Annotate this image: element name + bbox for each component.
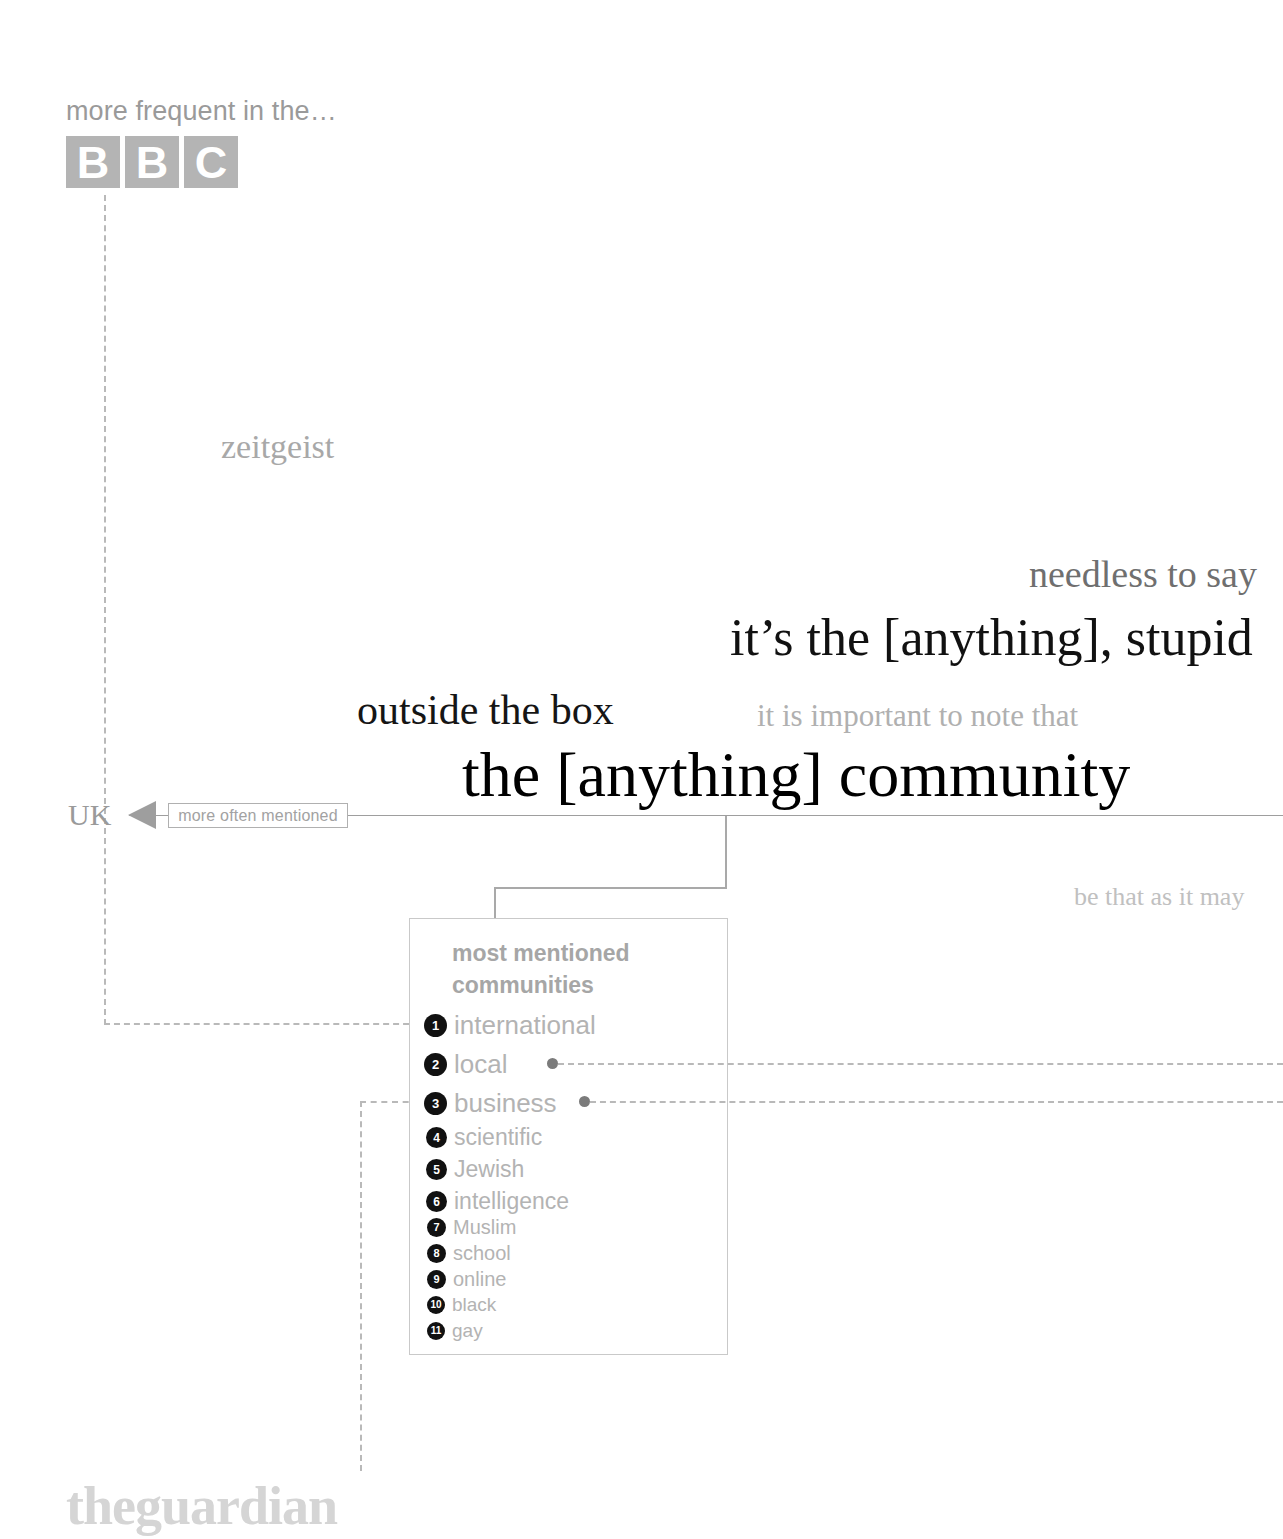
guardian-logo: theguardian bbox=[66, 1475, 337, 1537]
rank-badge: 5 bbox=[426, 1159, 447, 1180]
list-item-label: scientific bbox=[454, 1124, 542, 1151]
list-item[interactable]: 1 international bbox=[424, 1010, 596, 1041]
rank-badge: 7 bbox=[427, 1218, 446, 1237]
list-item[interactable]: 11 gay bbox=[427, 1320, 483, 1342]
local-connector-line bbox=[558, 1063, 1283, 1065]
phrase-be-that-as-it-may: be that as it may bbox=[1074, 882, 1244, 912]
list-item-label: school bbox=[453, 1242, 511, 1265]
rank-badge: 4 bbox=[426, 1127, 447, 1148]
rank-badge: 11 bbox=[427, 1322, 445, 1340]
list-item[interactable]: 7 Muslim bbox=[427, 1216, 516, 1239]
list-item-label: online bbox=[453, 1268, 506, 1291]
list-item[interactable]: 2 local bbox=[424, 1049, 507, 1080]
callout-leader-segment-1 bbox=[725, 816, 727, 888]
list-item[interactable]: 9 online bbox=[427, 1268, 506, 1291]
phrase-needless-to-say: needless to say bbox=[1029, 552, 1257, 596]
phrase-zeitgeist: zeitgeist bbox=[221, 428, 334, 466]
axis-direction-label-text: more often mentioned bbox=[178, 807, 338, 825]
rank-badge: 10 bbox=[427, 1296, 445, 1314]
business-connector-dot bbox=[579, 1096, 590, 1107]
axis-left-label: UK bbox=[68, 798, 111, 832]
rank-badge: 2 bbox=[424, 1053, 447, 1076]
list-item-label: gay bbox=[452, 1320, 483, 1342]
list-item[interactable]: 3 business bbox=[424, 1088, 557, 1119]
phrase-outside-the-box: outside the box bbox=[357, 686, 614, 734]
list-item-label: international bbox=[454, 1010, 596, 1041]
rank-badge: 8 bbox=[427, 1244, 446, 1263]
rank-badge: 6 bbox=[426, 1191, 447, 1212]
bbc-logo: B B C bbox=[66, 136, 238, 188]
top-caption: more frequent in the… bbox=[66, 96, 337, 127]
bbc-letter-1: B bbox=[66, 136, 120, 188]
list-item[interactable]: 5 Jewish bbox=[426, 1156, 524, 1183]
list-item-label: black bbox=[452, 1294, 496, 1316]
callout-leader-segment-2 bbox=[494, 887, 727, 889]
rank-badge: 1 bbox=[424, 1014, 447, 1037]
phrase-it-is-important-to-note-that: it is important to note that bbox=[757, 698, 1078, 734]
rank-badge: 3 bbox=[424, 1092, 447, 1115]
business-connector-line bbox=[590, 1101, 1283, 1103]
list-item[interactable]: 4 scientific bbox=[426, 1124, 542, 1151]
list-item-label: local bbox=[454, 1049, 507, 1080]
axis-arrow-icon bbox=[128, 801, 156, 829]
phrase-the-anything-community: the [anything] community bbox=[462, 738, 1130, 812]
list-item[interactable]: 8 school bbox=[427, 1242, 511, 1265]
rank-badge: 9 bbox=[427, 1270, 446, 1289]
list-item-label: Jewish bbox=[454, 1156, 524, 1183]
bbc-connector-horizontal bbox=[104, 1023, 429, 1025]
guardian-connector-vertical bbox=[360, 1101, 362, 1471]
bbc-connector-vertical bbox=[104, 195, 106, 1025]
list-item[interactable]: 10 black bbox=[427, 1294, 496, 1316]
phrase-its-the-anything-stupid: it’s the [anything], stupid bbox=[730, 608, 1253, 667]
list-item-label: Muslim bbox=[453, 1216, 516, 1239]
bbc-letter-3: C bbox=[184, 136, 238, 188]
list-item-label: intelligence bbox=[454, 1188, 569, 1215]
bbc-letter-2: B bbox=[125, 136, 179, 188]
list-item-label: business bbox=[454, 1088, 557, 1119]
callout-title: most mentioned communities bbox=[452, 938, 692, 1001]
infographic-canvas: more frequent in the… B B C theguardian … bbox=[0, 0, 1283, 1539]
local-connector-dot bbox=[547, 1058, 558, 1069]
list-item[interactable]: 6 intelligence bbox=[426, 1188, 569, 1215]
callout-leader-segment-3 bbox=[494, 887, 496, 919]
axis-direction-label: more often mentioned bbox=[168, 803, 348, 828]
